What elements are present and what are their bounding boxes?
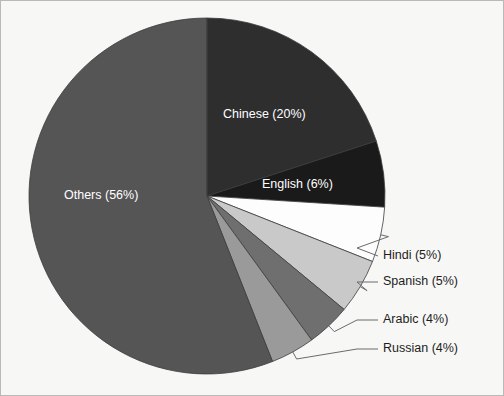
slice-label-hindi: Hindi (5%) — [383, 248, 441, 262]
pie-chart-figure: Chinese (20%) English (6%) Others (56%) … — [0, 0, 504, 396]
slice-label-arabic: Arabic (4%) — [383, 312, 448, 326]
slice-label-russian: Russian (4%) — [383, 341, 458, 355]
pie-chart-svg: Chinese (20%) English (6%) Others (56%) … — [0, 0, 504, 396]
leader-line-arabic — [329, 320, 378, 332]
slice-label-others: Others (56%) — [64, 188, 138, 202]
slice-label-spanish: Spanish (5%) — [383, 274, 458, 288]
slice-label-english: English (6%) — [262, 177, 333, 191]
leader-line-russian — [293, 349, 378, 359]
slice-label-chinese: Chinese (20%) — [223, 107, 306, 121]
